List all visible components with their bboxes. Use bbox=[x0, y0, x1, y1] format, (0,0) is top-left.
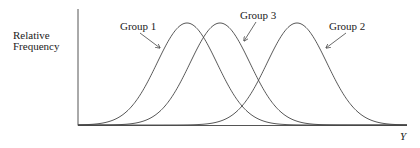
curves bbox=[78, 23, 407, 125]
curve-group1 bbox=[78, 23, 407, 125]
group3-label: Group 3 bbox=[240, 9, 277, 21]
group2-label: Group 2 bbox=[329, 20, 365, 32]
label-group3: Group 3 bbox=[240, 9, 277, 41]
group3-arrow bbox=[244, 22, 256, 41]
distribution-chart: Y Group 1 Group 3 Group 2 bbox=[0, 0, 420, 148]
group1-arrow bbox=[140, 33, 160, 48]
curve-group2 bbox=[78, 23, 407, 125]
group1-label: Group 1 bbox=[120, 20, 156, 32]
x-axis-label: Y bbox=[400, 130, 408, 142]
group2-arrow bbox=[326, 33, 346, 48]
curve-group3 bbox=[78, 23, 407, 125]
label-group1: Group 1 bbox=[120, 20, 160, 48]
label-group2: Group 2 bbox=[326, 20, 365, 48]
